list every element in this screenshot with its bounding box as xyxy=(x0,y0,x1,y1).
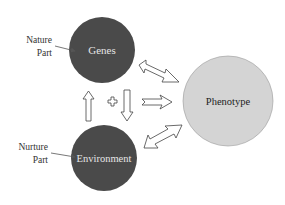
phenotype-label: Phenotype xyxy=(206,96,251,107)
environment-phenotype-double-arrow-icon xyxy=(144,125,182,148)
diagram-canvas: Genes Environment Phenotype Nature Part … xyxy=(0,0,285,205)
operator-label: + xyxy=(0,0,1,1)
plus-icon xyxy=(108,97,117,106)
nature-annotation: Nature Part xyxy=(26,35,75,58)
phenotype-node: Phenotype xyxy=(183,56,273,146)
genes-node: Genes xyxy=(69,17,135,83)
genes-phenotype-double-arrow-icon xyxy=(139,60,179,82)
genes-label: Genes xyxy=(88,44,116,56)
environment-label: Environment xyxy=(77,153,132,164)
nature-label-line2: Part xyxy=(37,48,53,58)
down-arrow-icon xyxy=(121,90,133,121)
nature-label-line1: Nature xyxy=(26,35,52,45)
nurture-annotation: Nurture Part xyxy=(18,142,75,165)
environment-node: Environment xyxy=(71,125,137,191)
nurture-label-line2: Part xyxy=(33,155,49,165)
nurture-label-line1: Nurture xyxy=(18,142,48,152)
up-arrow-icon xyxy=(83,91,94,121)
right-arrow-icon xyxy=(142,95,172,109)
